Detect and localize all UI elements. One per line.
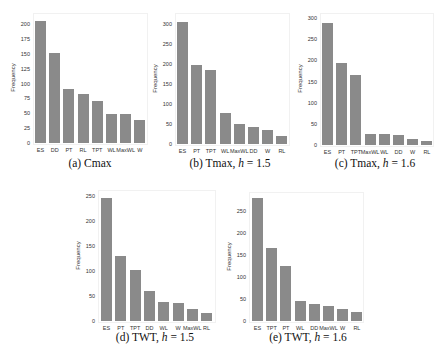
bar-dd [49, 53, 60, 143]
caption-d: (d) TWT, h = 1.5 [85, 331, 225, 343]
bar-wl [379, 134, 390, 145]
bar-maxwl [234, 124, 245, 144]
bar-maxwl [120, 114, 131, 143]
y-tick-label: 100 [226, 274, 246, 280]
bar-dd [144, 291, 155, 321]
y-tick-label: 0 [75, 318, 95, 324]
bar-maxwl [323, 306, 334, 321]
bar-dd [309, 304, 320, 321]
y-tick-label: 50 [75, 293, 95, 299]
bar-maxwl [187, 309, 198, 322]
bar-rl [201, 313, 212, 322]
y-tick-label: 250 [226, 208, 246, 214]
y-tick-label: 0 [297, 142, 317, 148]
y-tick-label: 25 [10, 125, 30, 131]
y-tick-label: 50 [297, 121, 317, 127]
bar-wl [106, 114, 117, 143]
caption-b-prefix: (b) Tmax, [189, 157, 238, 169]
caption-e-suffix: = 1.6 [320, 331, 347, 343]
y-tick-label: 300 [297, 15, 317, 21]
y-tick-label: 0 [226, 318, 246, 324]
y-tick-label: 200 [297, 57, 317, 63]
y-tick-label: 0 [152, 141, 172, 147]
bar-rl [421, 141, 432, 145]
caption-e: (e) TWT, h = 1.6 [238, 331, 378, 343]
bar-maxwl [365, 134, 376, 145]
y-tick-label: 200 [10, 21, 30, 27]
bar-wl [220, 113, 231, 144]
y-tick-label: 125 [10, 66, 30, 72]
y-tick-label: 150 [75, 243, 95, 249]
y-tick-label: 100 [297, 100, 317, 106]
bar-dd [393, 135, 404, 145]
bar-tpt [130, 270, 141, 322]
caption-b: (b) Tmax, h = 1.5 [160, 157, 300, 169]
y-tick-label: 50 [226, 296, 246, 302]
y-tick-label: 100 [75, 268, 95, 274]
y-tick-label: 150 [10, 51, 30, 57]
y-tick-label: 300 [152, 21, 172, 27]
x-tick-label: RL [272, 148, 291, 154]
bar-rl [78, 94, 89, 143]
y-tick-label: 150 [152, 81, 172, 87]
bar-pt [63, 89, 74, 143]
bar-pt [280, 266, 291, 321]
y-tick-label: 50 [152, 121, 172, 127]
y-tick-label: 0 [10, 140, 30, 146]
x-tick-label: RL [417, 149, 436, 155]
bar-es [252, 198, 263, 321]
bar-w [134, 120, 145, 143]
bar-dd [248, 127, 259, 144]
y-tick-label: 75 [10, 95, 30, 101]
bar-w [407, 139, 418, 145]
caption-c: (c) Tmax, h = 1.6 [305, 157, 442, 169]
bar-tpt [205, 70, 216, 144]
caption-d-prefix: (d) TWT, [116, 331, 162, 343]
y-tick-label: 200 [75, 218, 95, 224]
caption-c-suffix: = 1.6 [389, 157, 416, 169]
y-tick-label: 150 [226, 252, 246, 258]
x-tick-label: W [130, 147, 149, 153]
bar-pt [191, 65, 202, 144]
caption-b-suffix: = 1.5 [244, 157, 271, 169]
bar-es [177, 22, 188, 144]
y-tick-label: 200 [226, 230, 246, 236]
bar-es [101, 198, 112, 321]
bar-rl [276, 136, 287, 144]
bar-w [173, 303, 184, 321]
bar-es [322, 23, 333, 145]
bar-tpt [350, 75, 361, 145]
bar-pt [115, 256, 126, 321]
y-tick-label: 250 [152, 41, 172, 47]
caption-a-text: (a) Cmax [68, 157, 111, 169]
bar-w [262, 130, 273, 144]
x-tick-label: RL [347, 325, 366, 331]
bar-pt [336, 63, 347, 145]
bar-tpt [92, 101, 103, 143]
bar-rl [351, 312, 362, 321]
bar-wl [295, 301, 306, 321]
y-tick-label: 175 [10, 36, 30, 42]
x-tick-label: RL [197, 325, 216, 331]
caption-d-suffix: = 1.5 [168, 331, 195, 343]
bar-w [337, 309, 348, 321]
y-tick-label: 200 [152, 61, 172, 67]
caption-c-prefix: (c) Tmax, [335, 157, 383, 169]
caption-a: (a) Cmax [20, 157, 160, 169]
y-tick-label: 150 [297, 79, 317, 85]
bar-es [35, 21, 46, 143]
y-tick-label: 100 [152, 101, 172, 107]
y-tick-label: 250 [297, 36, 317, 42]
bar-tpt [266, 248, 277, 321]
bar-wl [158, 302, 169, 321]
caption-e-prefix: (e) TWT, [269, 331, 314, 343]
y-tick-label: 250 [75, 193, 95, 199]
y-tick-label: 100 [10, 81, 30, 87]
y-tick-label: 50 [10, 110, 30, 116]
